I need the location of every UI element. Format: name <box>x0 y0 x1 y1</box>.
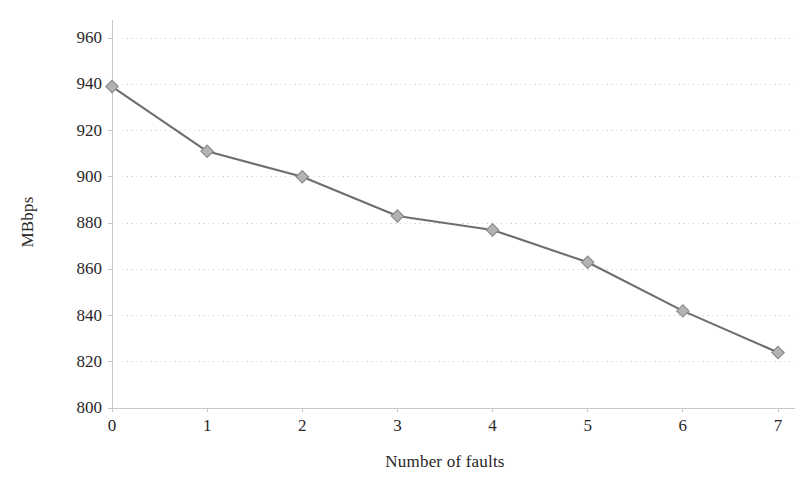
data-point-marker <box>486 224 498 236</box>
data-point-marker <box>296 171 308 183</box>
data-point-marker <box>391 210 403 222</box>
data-point-marker <box>201 145 213 157</box>
data-point-marker <box>582 256 594 268</box>
data-point-marker <box>772 346 784 358</box>
line-chart: MBbps 800820840860880900920940960 012345… <box>0 0 810 497</box>
plot-area <box>0 0 810 497</box>
gridlines <box>112 38 795 362</box>
data-point-marker <box>106 80 118 92</box>
axis-lines <box>112 20 795 408</box>
y-axis-ticks <box>108 38 112 408</box>
data-markers <box>106 80 784 358</box>
x-axis-ticks <box>112 408 778 412</box>
